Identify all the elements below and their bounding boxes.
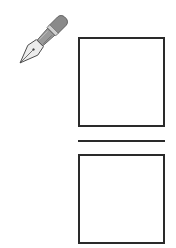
fountain-pen-icon: [12, 10, 72, 72]
divider-line: [78, 140, 165, 142]
bottom-box: [78, 154, 165, 244]
top-box: [78, 37, 165, 127]
